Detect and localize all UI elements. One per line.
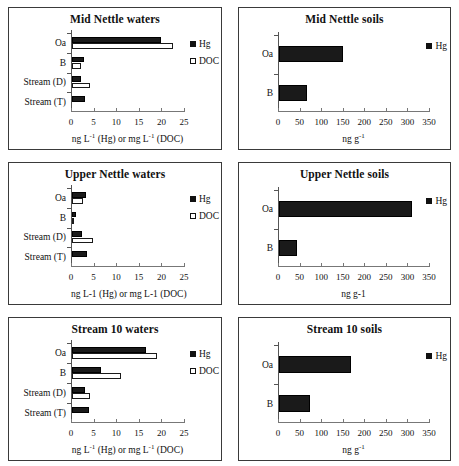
legend-swatch-hg-icon — [190, 351, 196, 357]
legend-swatch-hg-icon — [190, 196, 196, 202]
legend-label-hg: Hg — [435, 41, 447, 51]
chart-panel-mid-nettle-waters: Mid Nettle waters 0510152025OaBStream (D… — [0, 0, 230, 155]
y-axis-tick — [67, 53, 71, 54]
y-axis-tick — [67, 33, 71, 34]
y-axis-tick — [274, 74, 278, 75]
y-axis-category-label: B — [60, 58, 66, 68]
legend-label-hg: Hg — [199, 39, 211, 49]
x-axis-tick — [429, 263, 430, 267]
chart-panel-upper-nettle-waters: Upper Nettle waters 0510152025OaBStream … — [0, 155, 230, 310]
y-axis-tick — [274, 190, 278, 191]
y-axis-tick — [67, 343, 71, 344]
bar-doc-stream-d — [72, 238, 93, 244]
plot-area: 0510152025OaBStream (D)Stream (T)ng L-1 … — [71, 188, 184, 267]
legend-label-doc: DOC — [199, 366, 219, 376]
bar-doc-oa — [72, 198, 83, 204]
plot-area: 050100150200250300350OaBng g-1 — [278, 190, 429, 267]
x-axis-tick — [71, 419, 72, 423]
bar-hg-stream-d — [72, 387, 85, 393]
x-axis-caption: ng L-1 (Hg) or mg L-1 (DOC) — [71, 443, 184, 455]
bar-hg-b — [72, 367, 101, 373]
x-axis-tick — [364, 263, 365, 267]
x-axis-tick — [343, 419, 344, 423]
x-axis-tick-label: 10 — [112, 272, 121, 282]
x-axis-tick — [300, 108, 301, 112]
x-axis-tick-label: 150 — [336, 117, 350, 127]
y-axis-category-label: Oa — [262, 360, 273, 370]
x-axis-tick-label: 250 — [379, 117, 393, 127]
legend-item-doc: DOC — [190, 366, 219, 376]
y-axis-category-label: Oa — [55, 348, 66, 358]
bar-hg-b — [72, 57, 84, 63]
bar-doc-oa — [72, 43, 173, 49]
x-axis-tick — [300, 419, 301, 423]
x-axis-tick-label: 15 — [134, 272, 143, 282]
bar-hg-b — [279, 85, 307, 101]
y-axis-tick — [67, 92, 71, 93]
bar-doc-b — [72, 218, 74, 224]
bar-hg-stream-t — [72, 407, 89, 413]
x-axis-tick — [71, 108, 72, 112]
x-axis-tick — [184, 263, 185, 267]
chart-panel-stream-10-waters: Stream 10 waters 0510152025OaBStream (D)… — [0, 310, 230, 466]
x-axis-tick — [184, 108, 185, 112]
x-axis-tick-label: 15 — [134, 117, 143, 127]
x-axis-caption: ng g-1 — [278, 289, 429, 299]
x-axis-tick — [386, 263, 387, 267]
panel-title: Upper Nettle waters — [8, 168, 222, 180]
bar-doc-oa — [72, 353, 157, 359]
x-axis-tick — [116, 263, 117, 267]
x-axis-tick-label: 100 — [314, 428, 328, 438]
y-axis-category-label: Oa — [262, 49, 273, 59]
y-axis-tick — [67, 363, 71, 364]
x-axis-tick-label: 350 — [422, 272, 436, 282]
bar-hg-oa — [279, 201, 412, 217]
x-axis-tick — [386, 108, 387, 112]
legend-item-hg: Hg — [190, 194, 219, 204]
bar-hg-oa — [72, 37, 161, 43]
x-axis-tick-label: 0 — [276, 428, 281, 438]
bar-doc-stream-d — [72, 393, 90, 399]
legend-label-doc: DOC — [199, 211, 219, 221]
panel-title: Stream 10 waters — [8, 323, 222, 335]
legend-swatch-hg-icon — [426, 198, 432, 204]
legend-item-hg: Hg — [190, 39, 219, 49]
legend-item-hg: Hg — [426, 351, 447, 361]
x-axis-tick — [321, 419, 322, 423]
legend-label-hg: Hg — [435, 196, 447, 206]
x-axis-tick-label: 20 — [157, 428, 166, 438]
x-axis-tick-label: 350 — [422, 428, 436, 438]
x-axis-tick — [161, 108, 162, 112]
x-axis-tick-label: 5 — [91, 428, 96, 438]
x-axis-tick-label: 150 — [336, 272, 350, 282]
x-axis-line — [278, 266, 429, 267]
x-axis-tick — [429, 108, 430, 112]
x-axis-caption: ng g-1 — [278, 443, 429, 455]
x-axis-tick — [278, 419, 279, 423]
x-axis-tick-label: 0 — [276, 272, 281, 282]
x-axis-tick — [116, 419, 117, 423]
chart-panel-mid-nettle-soils: Mid Nettle soils 050100150200250300350Oa… — [230, 0, 459, 155]
x-axis-tick — [71, 263, 72, 267]
x-axis-tick-label: 100 — [314, 272, 328, 282]
panel-title: Mid Nettle soils — [238, 13, 451, 25]
legend-item-doc: DOC — [190, 56, 219, 66]
legend-label-doc: DOC — [199, 56, 219, 66]
bar-hg-oa — [279, 356, 351, 372]
x-axis-tick-label: 10 — [112, 117, 121, 127]
x-axis-tick — [139, 263, 140, 267]
y-axis-category-label: B — [267, 243, 273, 253]
bar-hg-b — [279, 240, 297, 256]
y-axis-tick — [67, 188, 71, 189]
panel-title: Stream 10 soils — [238, 323, 451, 335]
bar-hg-b — [72, 212, 76, 218]
x-axis-tick-label: 25 — [180, 272, 189, 282]
y-axis-category-label: Oa — [55, 38, 66, 48]
x-axis-tick — [407, 263, 408, 267]
x-axis-tick-label: 100 — [314, 117, 328, 127]
y-axis-tick — [67, 247, 71, 248]
legend-swatch-doc-icon — [190, 368, 196, 374]
bar-hg-b — [279, 395, 310, 411]
x-axis-tick — [343, 263, 344, 267]
x-axis-tick-label: 200 — [358, 428, 372, 438]
